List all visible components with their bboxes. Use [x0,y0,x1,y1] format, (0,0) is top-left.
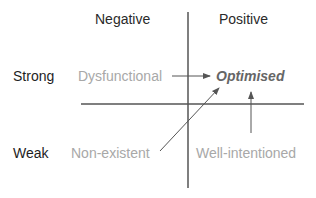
quadrant-non-existent: Non-existent [71,146,150,160]
column-header-negative: Negative [95,12,150,26]
arrow-nonexistent-to-optimised [160,88,219,151]
diagram-lines [0,0,316,198]
column-header-positive: Positive [219,12,268,26]
row-header-strong: Strong [13,69,54,83]
quadrant-well-intentioned: Well-intentioned [196,146,296,160]
quadrant-optimised: Optimised [216,69,284,83]
quadrant-dysfunctional: Dysfunctional [78,69,162,83]
row-header-weak: Weak [13,146,49,160]
